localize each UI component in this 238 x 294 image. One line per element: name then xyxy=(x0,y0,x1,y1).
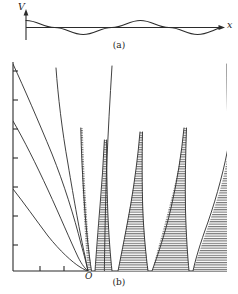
v-axis xyxy=(24,9,29,40)
characteristic-curve-3 xyxy=(13,189,88,271)
characteristic-curves xyxy=(13,64,230,271)
plot-axes xyxy=(13,62,227,271)
tongue-region-3 xyxy=(152,128,189,271)
panel-a-caption: (a) xyxy=(0,41,238,50)
panel-b-plot xyxy=(0,58,238,278)
panel-b-caption: (b) xyxy=(0,278,238,287)
v-axis-label: V xyxy=(18,2,25,12)
characteristic-curve-2 xyxy=(13,121,88,271)
characteristic-curve-1 xyxy=(13,64,88,271)
panel-b xyxy=(0,58,238,278)
figure-container: V x (a) xyxy=(0,0,238,294)
x-axis-label: x xyxy=(227,20,232,30)
y-axis-ticks xyxy=(13,71,18,245)
tongue-4-right xyxy=(227,64,230,188)
